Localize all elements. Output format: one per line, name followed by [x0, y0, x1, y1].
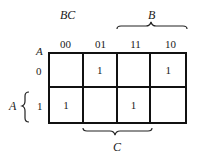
kmap-cell [50, 54, 84, 88]
col-header: 00 [48, 38, 83, 50]
kmap-cell: 1 [50, 88, 84, 122]
row-variable-label: A [36, 45, 43, 57]
brace-top [117, 22, 187, 29]
row-header: 0 [36, 65, 42, 77]
brace-bottom-label: C [113, 141, 121, 153]
kmap-cell: 1 [118, 88, 152, 122]
kmap-cell: 1 [84, 54, 118, 88]
brace-left [22, 92, 29, 122]
row-header: 1 [37, 100, 43, 112]
kmap-cell [84, 88, 118, 122]
col-header: 01 [83, 38, 118, 50]
col-header: 10 [153, 38, 188, 50]
kmap-cell: 1 [151, 54, 185, 88]
kmap-cell [151, 88, 185, 122]
brace-left-label: A [9, 100, 16, 112]
col-header: 11 [118, 38, 153, 50]
col-headers: 00 01 11 10 [48, 38, 188, 50]
kmap-cell [118, 54, 152, 88]
brace-bottom [83, 128, 152, 135]
kmap-grid: 1 1 1 1 [48, 52, 187, 124]
